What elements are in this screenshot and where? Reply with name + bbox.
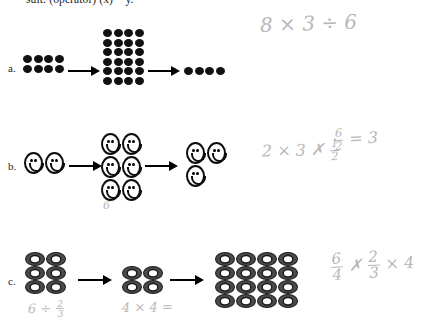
row-a-end-group (184, 67, 225, 75)
smiley-icon (101, 133, 120, 155)
donut-icon (46, 252, 66, 266)
row-b-middle-group (101, 133, 142, 201)
smiley-icon (101, 179, 120, 201)
dot (103, 58, 112, 66)
dot (124, 67, 133, 75)
row-c-fraction-six-fourths: 6 4 (330, 251, 343, 283)
dot (124, 39, 133, 47)
donut-icon (257, 294, 277, 308)
smiley-icon (186, 165, 205, 187)
dot (114, 39, 123, 47)
donut-icon (278, 280, 298, 294)
row-a-arrow-2 (148, 66, 180, 76)
donut-icon (236, 280, 256, 294)
donut-icon (215, 280, 235, 294)
row-c-times-four: × 4 (385, 253, 415, 273)
dot (103, 48, 112, 56)
donut-icon (122, 280, 142, 294)
dot (135, 29, 144, 37)
row-label-c: c. (8, 275, 16, 287)
dot (103, 29, 112, 37)
donut-icon (122, 266, 142, 280)
row-a-middle-group (103, 29, 144, 85)
row-b-result-fraction: 6 2 (334, 128, 344, 152)
dot (103, 67, 112, 75)
donut-icon (215, 266, 235, 280)
row-a-arrow-1 (68, 66, 100, 76)
row-c-start-group (25, 252, 67, 294)
dot (114, 67, 123, 75)
dot (124, 48, 133, 56)
donut-icon (257, 252, 277, 266)
dot (34, 65, 43, 73)
donut-icon (25, 280, 45, 294)
dot (103, 39, 112, 47)
dot (135, 48, 144, 56)
header-text: sult: (operator) (x) = y. (26, 0, 134, 5)
smiley-icon (45, 152, 64, 174)
row-b-equation-text: 2 × 3 ✗ (262, 140, 325, 161)
donut-icon (215, 252, 235, 266)
donut-icon (46, 280, 66, 294)
dot (205, 67, 214, 75)
row-c-end-group (215, 252, 299, 308)
donut-icon (236, 294, 256, 308)
dot (114, 29, 123, 37)
row-b-result-value: = 3 (349, 128, 378, 148)
donut-icon (278, 294, 298, 308)
donut-icon (25, 252, 45, 266)
donut-icon (215, 294, 235, 308)
row-c-handwritten-left: 6 ÷ 2 3 (28, 299, 66, 320)
dot (195, 67, 204, 75)
row-c-note-left: 6 ÷ (28, 301, 52, 317)
row-c-arrow-2 (170, 275, 204, 285)
row-b-count-note: 6 (103, 199, 110, 212)
row-c-fraction-two-thirds: 2 3 (56, 299, 65, 319)
donut-icon (236, 252, 256, 266)
dot (124, 77, 133, 85)
donut-icon (257, 266, 277, 280)
dot (23, 65, 32, 73)
smiley-icon (122, 133, 141, 155)
row-b-end-group (186, 142, 227, 187)
dot (124, 29, 133, 37)
smiley-icon (24, 152, 43, 174)
dot (23, 55, 32, 63)
row-c-cross-out: ✗ (348, 256, 362, 276)
donut-icon (46, 266, 66, 280)
row-b-arrow-1 (69, 161, 102, 171)
dot (135, 58, 144, 66)
dot (44, 55, 53, 63)
row-label-b: b. (8, 160, 16, 172)
donut-icon (143, 280, 163, 294)
smiley-icon (122, 156, 141, 178)
dot (103, 77, 112, 85)
dot (135, 39, 144, 47)
donut-icon (257, 280, 277, 294)
dot (184, 67, 193, 75)
dot (124, 58, 133, 66)
dot (135, 77, 144, 85)
row-a-handwritten-equation: 8 × 3 ÷ 6 (260, 10, 358, 37)
row-c-fraction-two-thirds-b: 2 3 (367, 249, 380, 281)
row-c-middle-group (122, 266, 164, 294)
row-b-arrow-2 (145, 161, 178, 171)
dot (114, 58, 123, 66)
donut-icon (143, 266, 163, 280)
dot (114, 77, 123, 85)
dot (44, 65, 53, 73)
dot (114, 48, 123, 56)
dot (55, 65, 64, 73)
dot (135, 67, 144, 75)
row-b-start-group (24, 152, 65, 174)
row-a-start-group (23, 55, 64, 73)
row-c-handwritten-mid: 4 × 4 = (122, 299, 173, 315)
smiley-icon (101, 156, 120, 178)
smiley-icon (207, 142, 226, 164)
row-c-handwritten-right: 6 4 ✗ 2 3 × 4 (329, 248, 415, 284)
row-label-a: a. (8, 62, 16, 74)
dot (55, 55, 64, 63)
donut-icon (278, 266, 298, 280)
donut-icon (25, 266, 45, 280)
dot (216, 67, 225, 75)
